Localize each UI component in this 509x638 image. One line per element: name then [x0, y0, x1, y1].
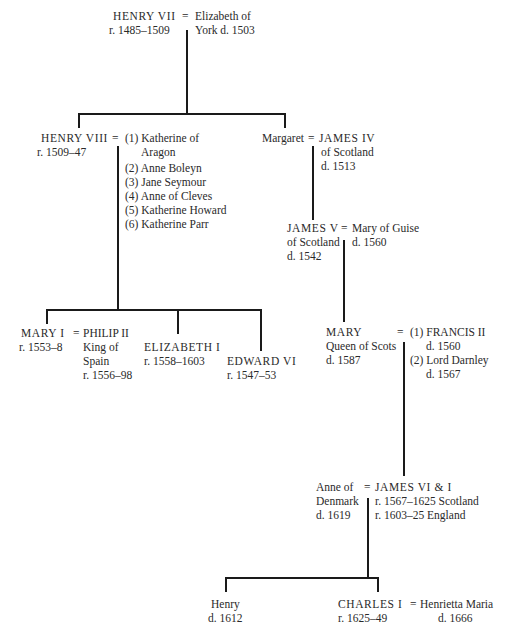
marriage-sign: =: [308, 132, 315, 145]
elizabeth1-drop-line: [177, 309, 179, 334]
marriage-sign: =: [397, 326, 404, 339]
charles1-bar-ext: [367, 577, 379, 579]
henry7-children-bar: [78, 113, 286, 115]
mary-guise-name: Mary of Guise: [352, 222, 419, 235]
james6-descent-line: [367, 498, 369, 579]
henrietta-name: Henrietta Maria: [420, 598, 493, 611]
marriage-sign: =: [182, 10, 189, 23]
mary-scots-death: d. 1587: [326, 354, 361, 367]
james6-reign-england: r. 1603–25 England: [375, 509, 465, 522]
mary-scots-name: MARY: [326, 326, 362, 339]
marriage-sign: =: [341, 222, 348, 235]
henry8-children-bar: [46, 309, 262, 311]
mary-scots-title: Queen of Scots: [326, 340, 396, 353]
henrietta-death: d. 1666: [438, 612, 473, 625]
mary-scots-descent-line: [403, 342, 405, 476]
henry7-descent-line: [186, 30, 188, 115]
francis2-name: (1) FRANCIS II: [410, 326, 485, 339]
charles1-drop-line: [377, 577, 379, 592]
edward6-name: EDWARD VI: [227, 355, 296, 368]
elizabeth1-reign: r. 1558–1603: [144, 355, 205, 368]
edward6-drop-line: [260, 309, 262, 351]
james6-children-bar: [225, 577, 369, 579]
henry-prince-death: d. 1612: [208, 612, 243, 625]
james5-death: d. 1542: [287, 250, 322, 263]
elizabeth-york-death: York d. 1503: [195, 24, 255, 37]
elizabeth-york-name: Elizabeth of: [195, 10, 251, 23]
edward6-reign: r. 1547–53: [227, 369, 276, 382]
henry8-wife-6: (6) Katherine Parr: [125, 218, 209, 231]
henry8-reign: r. 1509–47: [37, 146, 86, 159]
anne-denmark-title: Denmark: [316, 495, 359, 508]
margaret-drop-line: [284, 113, 286, 128]
james4-death: d. 1513: [321, 160, 356, 173]
james5-name: JAMES V: [287, 222, 339, 235]
henry8-wife-3: (3) Jane Seymour: [125, 176, 206, 189]
mary1-name: MARY I: [21, 327, 65, 340]
henry8-wife-2: (2) Anne Boleyn: [125, 162, 202, 175]
margaret-name: Margaret: [262, 132, 304, 145]
james4-title: of Scotland: [321, 146, 374, 159]
henry-prince-drop-line: [225, 577, 227, 592]
james5-title: of Scotland: [287, 236, 340, 249]
henry8-wife-1: (1) Katherine of: [125, 132, 199, 145]
marriage-sign: =: [73, 327, 80, 340]
james4-descent-line: [312, 146, 314, 220]
philip2-title-cont: Spain: [83, 355, 109, 368]
henry7-name: HENRY VII: [113, 10, 176, 23]
mary1-drop-line: [46, 309, 48, 324]
darnley-death: d. 1567: [426, 368, 461, 381]
marriage-sign: =: [364, 481, 371, 494]
henry8-name: HENRY VIII: [41, 132, 108, 145]
henry7-reign: r. 1485–1509: [109, 24, 170, 37]
marriage-sign: =: [112, 132, 119, 145]
anne-denmark-death: d. 1619: [316, 509, 351, 522]
elizabeth1-name: ELIZABETH I: [144, 341, 221, 354]
henry8-wife-1-cont: Aragon: [141, 146, 176, 159]
francis2-death: d. 1560: [426, 340, 461, 353]
james6-reign-scotland: r. 1567–1625 Scotland: [375, 495, 479, 508]
charles1-name: CHARLES I: [338, 598, 403, 611]
darnley-name: (2) Lord Darnley: [410, 354, 489, 367]
marriage-sign: =: [410, 598, 417, 611]
charles1-reign: r. 1625–49: [338, 612, 387, 625]
mary1-reign: r. 1553–8: [19, 341, 62, 354]
henry-prince-name: Henry: [211, 598, 240, 611]
henry8-descent-line: [117, 146, 119, 311]
philip2-name: PHILIP II: [83, 327, 129, 340]
henry8-drop-line: [78, 113, 80, 128]
james6-name: JAMES VI & I: [375, 481, 452, 494]
anne-denmark-name: Anne of: [316, 481, 353, 494]
james4-name: JAMES IV: [319, 132, 375, 145]
henry8-wife-5: (5) Katherine Howard: [125, 204, 227, 217]
mary-guise-death: d. 1560: [352, 236, 387, 249]
philip2-reign: r. 1556–98: [83, 369, 132, 382]
henry8-wife-4: (4) Anne of Cleves: [125, 190, 212, 203]
james5-descent-line: [343, 240, 345, 322]
philip2-title: King of: [83, 341, 118, 354]
